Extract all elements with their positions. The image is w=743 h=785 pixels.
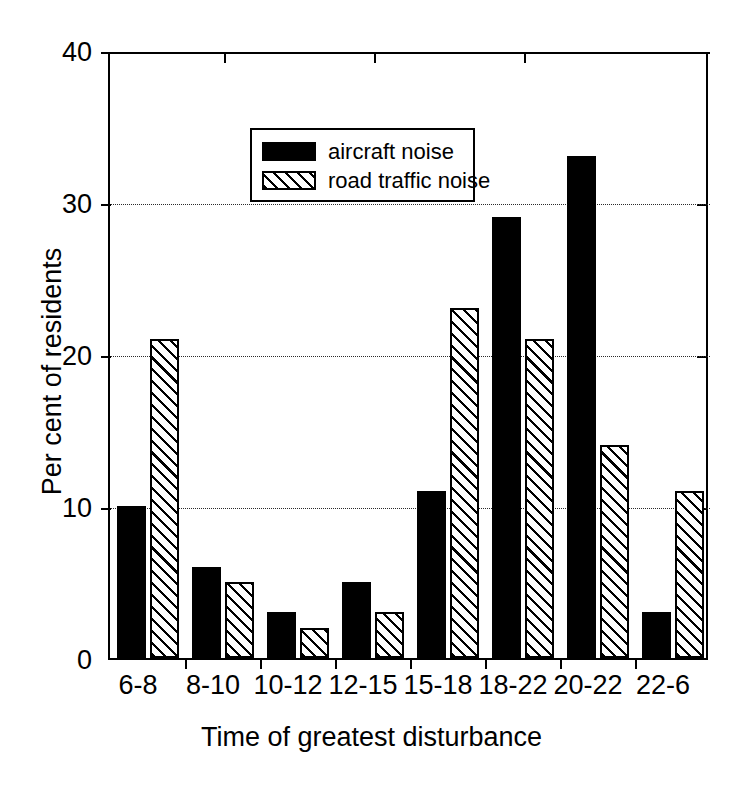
plot-area: aircraft noise road traffic noise <box>108 52 708 660</box>
bar-group <box>560 50 635 658</box>
x-tick-mark-6 <box>635 658 637 669</box>
y-tick-label-30: 30 <box>32 191 92 218</box>
bar-road-traffic-noise-20-22 <box>600 445 629 658</box>
y-tick-label-10: 10 <box>32 495 92 522</box>
x-tick-mark-4 <box>485 658 487 669</box>
x-tick-mark-3 <box>410 658 412 669</box>
y-tick-label-0: 0 <box>32 647 92 674</box>
legend-swatch-solid-icon <box>262 142 316 161</box>
bar-group <box>185 50 260 658</box>
bar-road-traffic-noise-18-22 <box>525 339 554 658</box>
y-axis-title: Per cent of residents <box>37 202 68 542</box>
bar-group <box>485 50 560 658</box>
bar-road-traffic-noise-10-12 <box>300 628 329 658</box>
legend-entry-road-traffic-noise: road traffic noise <box>262 166 465 195</box>
bar-aircraft-noise-10-12 <box>267 612 296 658</box>
bar-aircraft-noise-6-8 <box>117 506 146 658</box>
legend-swatch-hatch-icon <box>262 171 316 190</box>
y-tick-label-20: 20 <box>32 343 92 370</box>
bar-road-traffic-noise-8-10 <box>225 582 254 658</box>
x-tick-mark-5 <box>560 658 562 669</box>
x-tick-mark-0 <box>185 658 187 669</box>
bar-aircraft-noise-8-10 <box>192 567 221 658</box>
bar-aircraft-noise-20-22 <box>567 156 596 658</box>
bar-road-traffic-noise-22-6 <box>675 491 704 658</box>
bar-road-traffic-noise-6-8 <box>150 339 179 658</box>
legend-label-aircraft-noise: aircraft noise <box>328 139 454 165</box>
chart-legend: aircraft noise road traffic noise <box>250 128 475 202</box>
x-axis-title: Time of greatest disturbance <box>0 722 743 753</box>
x-tick-label-7: 22-6 <box>613 672 713 699</box>
x-tick-mark-1 <box>260 658 262 669</box>
bar-aircraft-noise-18-22 <box>492 217 521 658</box>
bar-chart: Per cent of residents 0 10 20 30 40 <box>0 0 743 785</box>
bar-aircraft-noise-15-18 <box>417 491 446 658</box>
bar-road-traffic-noise-12-15 <box>375 612 404 658</box>
legend-label-road-traffic-noise: road traffic noise <box>328 168 490 194</box>
legend-entry-aircraft-noise: aircraft noise <box>262 137 465 166</box>
bar-group <box>635 50 710 658</box>
bar-group <box>110 50 185 658</box>
y-tick-label-40: 40 <box>32 39 92 66</box>
x-tick-mark-2 <box>335 658 337 669</box>
bar-aircraft-noise-22-6 <box>642 612 671 658</box>
bar-road-traffic-noise-15-18 <box>450 308 479 658</box>
bar-aircraft-noise-12-15 <box>342 582 371 658</box>
